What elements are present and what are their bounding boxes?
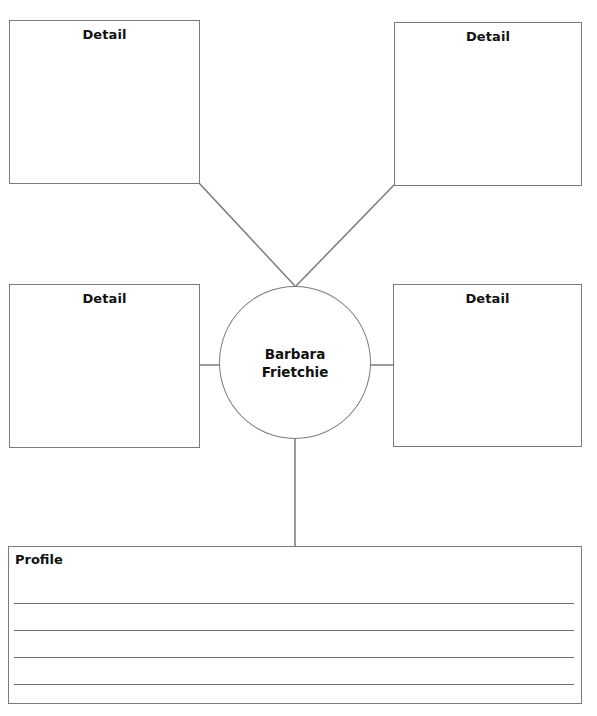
writing-line-4[interactable] [14,684,574,685]
writing-line-2[interactable] [14,630,574,631]
detail-box-middle-right[interactable]: Detail [393,284,582,447]
detail-title: Detail [394,291,581,306]
center-topic-label: Barbara Frietchie [262,345,329,381]
writing-line-1[interactable] [14,603,574,604]
writing-line-3[interactable] [14,657,574,658]
profile-title: Profile [15,552,63,567]
center-label-line-2: Frietchie [262,363,329,381]
detail-title: Detail [10,27,199,42]
detail-box-middle-left[interactable]: Detail [9,284,200,448]
center-label-line-1: Barbara [262,345,329,363]
connector-top-left [199,183,295,286]
profile-box[interactable]: Profile [8,546,582,704]
detail-title: Detail [10,291,199,306]
center-topic-circle: Barbara Frietchie [219,286,371,439]
detail-box-top-right[interactable]: Detail [394,22,582,186]
detail-box-top-left[interactable]: Detail [9,20,200,184]
detail-title: Detail [395,29,581,44]
connector-top-right [296,185,394,286]
